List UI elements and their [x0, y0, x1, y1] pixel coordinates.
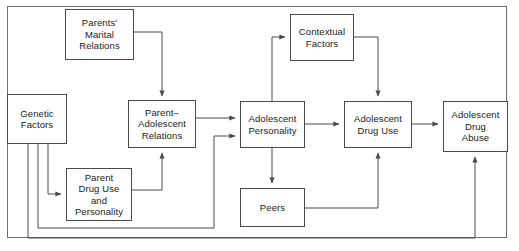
edge-genetic-to-parent-drug-use	[48, 144, 61, 194]
node-adolescent-personality[interactable]: Adolescent Personality	[240, 101, 305, 148]
node-adolescent-drug-use[interactable]: Adolescent Drug Use	[344, 101, 412, 148]
diagram-canvas: Parents' Marital Relations Contextual Fa…	[0, 0, 519, 251]
node-label: Contextual Factors	[297, 26, 347, 49]
node-label: Parents' Marital Relations	[77, 17, 122, 52]
node-label: Parent Drug Use and Personality	[73, 172, 125, 218]
node-label: Genetic Factors	[18, 108, 55, 131]
node-label: Adolescent Personality	[246, 113, 298, 136]
edge-personality-to-contextual	[272, 37, 285, 101]
node-label: Parent– Adolescent Relations	[136, 107, 188, 142]
node-label: Peers	[258, 202, 287, 214]
node-contextual-factors[interactable]: Contextual Factors	[290, 14, 354, 61]
node-label: Adolescent Drug Abuse	[449, 109, 501, 144]
edge-marital-to-parent-adolescent	[134, 32, 162, 96]
node-peers[interactable]: Peers	[240, 188, 305, 227]
node-parent-adolescent-relations[interactable]: Parent– Adolescent Relations	[128, 100, 196, 148]
edge-contextual-to-drug-use	[354, 37, 378, 96]
edge-peers-to-drug-use	[305, 153, 378, 208]
node-parents-marital-relations[interactable]: Parents' Marital Relations	[65, 9, 134, 60]
node-adolescent-drug-abuse[interactable]: Adolescent Drug Abuse	[443, 101, 508, 152]
node-genetic-factors[interactable]: Genetic Factors	[7, 94, 67, 144]
node-parent-drug-use-and-personality[interactable]: Parent Drug Use and Personality	[66, 168, 132, 221]
edge-parent-drug-use-to-parent-adolescent	[132, 153, 162, 190]
node-label: Adolescent Drug Use	[352, 113, 404, 136]
